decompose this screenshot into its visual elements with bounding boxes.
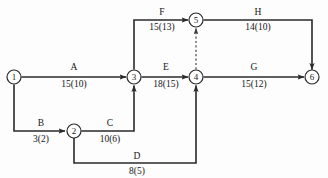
node-4[interactable]: 4	[189, 70, 203, 84]
node-3[interactable]: 3	[127, 70, 141, 84]
edge-name-g: G	[251, 62, 258, 72]
edge-duration-e: 18(15)	[153, 79, 178, 90]
node-label-6: 6	[310, 72, 315, 82]
edge-duration-a: 15(10)	[61, 79, 86, 90]
edge-name-d: D	[134, 151, 141, 161]
network-diagram-canvas: 123456 A15(10)B3(2)C10(6)D8(5)E18(15)F15…	[0, 0, 328, 178]
node-1[interactable]: 1	[7, 70, 21, 84]
node-6[interactable]: 6	[305, 70, 319, 84]
edge-duration-f: 15(13)	[149, 22, 174, 33]
node-2[interactable]: 2	[67, 124, 81, 138]
edge-duration-h: 14(10)	[245, 22, 270, 33]
network-diagram-svg: 123456 A15(10)B3(2)C10(6)D8(5)E18(15)F15…	[0, 0, 328, 178]
edge-label-group-a: A15(10)	[61, 62, 86, 90]
edge-name-e: E	[163, 62, 169, 72]
edge-duration-b: 3(2)	[33, 134, 49, 145]
edge-name-a: A	[71, 62, 78, 72]
node-label-4: 4	[194, 72, 199, 82]
edges-layer	[14, 20, 312, 163]
edge-labels-layer: A15(10)B3(2)C10(6)D8(5)E18(15)F15(13)G15…	[33, 7, 271, 177]
node-label-3: 3	[132, 72, 137, 82]
edge-duration-c: 10(6)	[100, 134, 121, 145]
node-label-1: 1	[12, 72, 17, 82]
edge-label-group-g: G15(12)	[241, 62, 266, 90]
edge-label-group-e: E18(15)	[153, 62, 178, 90]
edge-name-c: C	[107, 118, 113, 128]
node-5[interactable]: 5	[189, 13, 203, 27]
edge-name-h: H	[255, 7, 262, 17]
edge-name-f: F	[159, 7, 164, 17]
edge-duration-g: 15(12)	[241, 79, 266, 90]
edge-duration-d: 8(5)	[129, 166, 145, 177]
node-label-2: 2	[72, 126, 77, 136]
edge-label-group-d: D8(5)	[129, 151, 145, 177]
node-label-5: 5	[194, 15, 199, 25]
edge-name-b: B	[38, 118, 44, 128]
